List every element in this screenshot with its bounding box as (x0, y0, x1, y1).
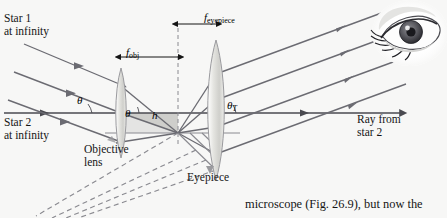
star1-line1: Star 1 (4, 12, 31, 24)
objective-line2: lens (84, 156, 103, 168)
star2-line2: at infinity (4, 129, 49, 141)
label-ray-from-star-2: Ray fromstar 2 (357, 113, 401, 139)
telescope-ray-diagram (0, 0, 447, 218)
label-theta-objective-upper: θ (77, 94, 82, 106)
label-objective-lens: Objectivelens (84, 143, 129, 169)
f-obj-subscript: obj (129, 51, 139, 60)
body-caption-text: microscope (Fig. 26.9), but now the (245, 198, 423, 212)
label-star-2: Star 2at infinity (4, 116, 49, 142)
label-eyepiece: Eyepiece (187, 171, 229, 184)
label-image-height-h: h (152, 109, 158, 121)
label-theta-objective-lower: θ (125, 107, 130, 119)
rayfrom-line1: Ray from (357, 113, 401, 125)
rayfrom-line2: star 2 (357, 126, 382, 138)
label-theta-telescope: θT (227, 99, 237, 113)
star1-line2: at infinity (4, 25, 49, 37)
theta-T-subscript: T (232, 104, 236, 113)
label-f-obj: fobj (126, 46, 139, 60)
objective-line1: Objective (84, 143, 129, 155)
label-star-1: Star 1at infinity (4, 12, 49, 38)
f-eyepiece-subscript: eyepiece (207, 16, 235, 25)
label-f-eyepiece: feyepiece (204, 11, 235, 25)
star2-line1: Star 2 (4, 116, 31, 128)
